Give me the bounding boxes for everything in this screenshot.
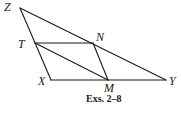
point-label-x: X	[38, 75, 45, 87]
segment-NM	[93, 43, 108, 80]
figure-caption: Exs. 2–8	[86, 94, 122, 104]
point-label-y: Y	[169, 75, 176, 87]
segment-TM	[35, 43, 108, 80]
point-label-n: N	[96, 31, 104, 43]
triangle-figure: Z T X N M Y Exs. 2–8	[0, 0, 181, 114]
point-label-t: T	[18, 38, 25, 50]
point-label-z: Z	[4, 1, 11, 13]
